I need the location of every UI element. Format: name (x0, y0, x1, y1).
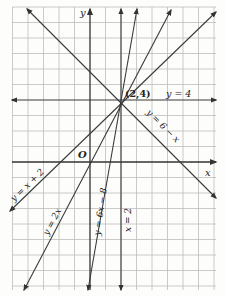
y-axis-label: y (79, 7, 86, 18)
line-y-eq-2x (24, 10, 171, 290)
line-y-eq-x-plus-2 (10, 12, 216, 211)
label-y-eq-6-minus-x: y = 6 − x (144, 107, 182, 145)
graph-figure: y x O (2,4) y = 4 y = 6 − x y = x + 2 y … (0, 0, 226, 296)
label-x-eq-2: x = 2 (123, 208, 133, 232)
axes (12, 9, 216, 290)
x-axis-label: x (205, 167, 211, 178)
lines (10, 9, 216, 290)
label-y-eq-4: y = 4 (165, 88, 191, 99)
origin-label: O (78, 149, 87, 160)
label-y-eq-x-plus-2: y = x + 2 (8, 167, 46, 205)
label-y-eq-6x-minus-8: y = 6x − 8 (92, 187, 109, 237)
grid (12, 7, 216, 290)
line-y-eq-6x-minus-8 (88, 9, 137, 290)
point-label: (2,4) (125, 88, 151, 100)
